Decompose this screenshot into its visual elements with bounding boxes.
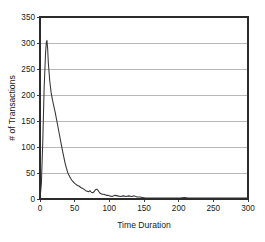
- line-chart: 050100150200250300350 050100150200250300…: [0, 0, 265, 242]
- y-tick-label-300: 300: [21, 39, 35, 48]
- y-tick-label-250: 250: [21, 65, 35, 74]
- y-tick-label-50: 50: [26, 169, 36, 178]
- y-tick-label-0: 0: [30, 195, 35, 204]
- x-tick-label-0: 0: [38, 204, 43, 213]
- x-tick-label-250: 250: [206, 204, 220, 213]
- y-tick-label-350: 350: [21, 13, 35, 22]
- y-tick-label-100: 100: [21, 143, 35, 152]
- x-tick-label-200: 200: [172, 204, 186, 213]
- y-tick-label-200: 200: [21, 91, 35, 100]
- chart-container: 050100150200250300350 050100150200250300…: [0, 0, 265, 242]
- x-axis-title: Time Duration: [117, 220, 171, 230]
- x-tick-label-50: 50: [70, 204, 80, 213]
- y-tick-label-150: 150: [21, 117, 35, 126]
- x-tick-label-150: 150: [137, 204, 151, 213]
- x-tick-label-300: 300: [241, 204, 255, 213]
- x-tick-label-100: 100: [102, 204, 116, 213]
- y-axis-title: # of Transactions: [7, 75, 17, 140]
